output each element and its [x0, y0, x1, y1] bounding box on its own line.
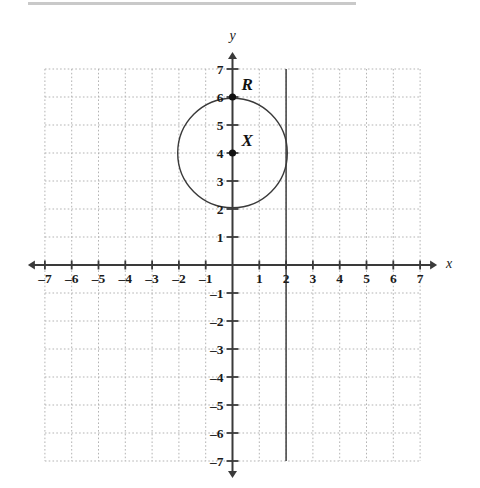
y-tick-label: –2 — [209, 314, 224, 329]
point-labels: RX — [241, 75, 254, 150]
x-tick-label: –4 — [118, 271, 133, 286]
x-tick-label: 4 — [336, 271, 343, 286]
x-tick-label: 5 — [363, 271, 370, 286]
y-tick-label: 7 — [217, 62, 224, 77]
y-tick-label: –3 — [209, 342, 224, 357]
y-tick-label: –5 — [209, 398, 224, 413]
x-tick-label: –3 — [144, 271, 159, 286]
x-tick-label: –7 — [37, 271, 52, 286]
x-tick-label: –5 — [91, 271, 106, 286]
coordinate-plane-figure: –7–6–5–4–3–2–112345677654321–1–2–3–4–5–6… — [0, 0, 480, 488]
data-point-x — [229, 149, 236, 156]
y-axis-label: y — [227, 28, 236, 43]
y-tick-label: –1 — [209, 286, 224, 301]
x-axis-arrow-right — [430, 261, 437, 270]
data-point-r — [229, 93, 236, 100]
x-tick-label: 2 — [283, 271, 290, 286]
axis-lines — [28, 52, 437, 478]
x-tick-label: 3 — [310, 271, 317, 286]
x-axis-arrow-left — [28, 261, 35, 270]
y-tick-label: 3 — [217, 174, 224, 189]
y-tick-label: –6 — [209, 426, 224, 441]
x-tick-label: 7 — [417, 271, 424, 286]
x-axis-label: x — [445, 256, 453, 271]
y-tick-label: 2 — [217, 202, 224, 217]
x-tick-label: 6 — [390, 271, 397, 286]
y-tick-label: 4 — [217, 146, 224, 161]
x-tick-label: –2 — [171, 271, 186, 286]
graph-canvas: –7–6–5–4–3–2–112345677654321–1–2–3–4–5–6… — [0, 0, 480, 488]
x-tick-label: 1 — [256, 271, 263, 286]
point-label-x: X — [241, 131, 254, 150]
y-tick-label: 5 — [217, 118, 224, 133]
y-tick-label: 6 — [217, 90, 224, 105]
y-tick-label: –7 — [209, 454, 224, 469]
x-tick-label: –1 — [198, 271, 213, 286]
y-axis-arrow-up — [228, 52, 237, 59]
y-tick-label: –4 — [209, 370, 224, 385]
y-tick-label: 1 — [217, 230, 224, 245]
coordinate-plane-svg: –7–6–5–4–3–2–112345677654321–1–2–3–4–5–6… — [0, 0, 480, 488]
x-tick-label: –6 — [64, 271, 79, 286]
point-label-r: R — [241, 75, 253, 94]
y-axis-arrow-down — [228, 471, 237, 478]
